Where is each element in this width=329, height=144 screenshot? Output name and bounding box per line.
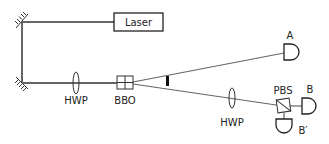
hwp-b-label: HWP <box>220 117 243 128</box>
bbo-crystal <box>117 76 133 89</box>
hwp-pump-label: HWP <box>64 95 87 106</box>
detector-a-icon: A <box>284 30 299 60</box>
detector-b-prime-icon: B′ <box>276 119 308 136</box>
pbs-cube <box>276 98 291 113</box>
detector-a-label: A <box>287 30 294 41</box>
laser: Laser <box>114 13 163 31</box>
pbs-label: PBS <box>273 85 292 96</box>
beam-block <box>166 76 169 86</box>
detector-b-icon: B <box>302 84 316 114</box>
hwp-arm-b: HWP <box>220 88 243 128</box>
detector-b-label: B <box>307 84 314 95</box>
photon-beams <box>133 53 284 106</box>
optical-setup-diagram: Laser HWP BBO HWP A PBS B B′ <box>0 0 329 144</box>
bbo-label: BBO <box>114 95 136 106</box>
laser-label: Laser <box>125 17 153 28</box>
pump-beam <box>22 22 117 83</box>
detector-b-prime-label: B′ <box>298 125 308 136</box>
hwp-pump: HWP <box>64 72 87 106</box>
